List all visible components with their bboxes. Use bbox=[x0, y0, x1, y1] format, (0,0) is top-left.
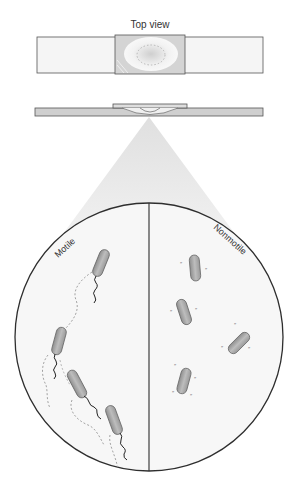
coverslip-side bbox=[113, 104, 187, 108]
motility-diagram: Top view Motile Nonmotile bbox=[0, 0, 292, 489]
hanging-drop-well bbox=[124, 37, 178, 71]
side-view-slide bbox=[35, 104, 263, 116]
top-view-label: Top view bbox=[131, 19, 171, 30]
top-view-slide bbox=[37, 35, 263, 74]
coverslip-top bbox=[115, 35, 185, 74]
